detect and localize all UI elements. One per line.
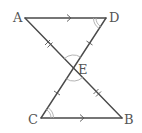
label-A: A: [12, 10, 23, 25]
arc-AED-icon: [64, 55, 80, 59]
segment-DC: [41, 18, 106, 118]
arc-CEB-icon: [66, 77, 82, 81]
double-tick-AE-icon: [45, 40, 53, 48]
label-E: E: [78, 62, 88, 77]
label-B: B: [124, 112, 134, 127]
label-C: C: [28, 112, 38, 127]
label-D: D: [109, 10, 119, 25]
geometry-diagram: A D E C B: [0, 0, 142, 133]
